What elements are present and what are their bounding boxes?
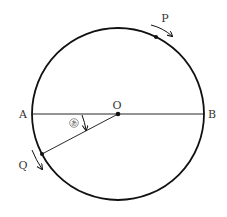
label-q: Q — [18, 159, 27, 172]
point-q — [40, 152, 44, 156]
label-b: B — [208, 108, 216, 121]
radius-oq — [42, 114, 118, 154]
circle-diagram: あ O A B P Q — [0, 0, 227, 217]
label-o: O — [112, 99, 121, 112]
label-p: P — [161, 12, 169, 25]
point-p — [154, 35, 158, 39]
p-motion-arrow-icon — [151, 25, 172, 36]
angle-arc-icon — [82, 115, 86, 130]
center-point — [116, 112, 121, 117]
label-a: A — [18, 108, 28, 121]
angle-symbol: あ — [71, 119, 77, 126]
